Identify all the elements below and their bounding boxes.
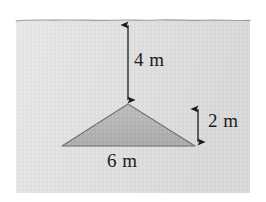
- diagram-canvas: [0, 0, 266, 202]
- base-dimension-label: 6 m: [107, 151, 138, 171]
- height-dimension-label: 2 m: [208, 111, 239, 131]
- figure-container: 4 m 2 m 6 m: [0, 0, 266, 202]
- depth-dimension-label: 4 m: [134, 50, 165, 70]
